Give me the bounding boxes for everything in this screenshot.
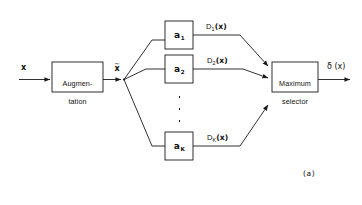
augmentation-line-1: Augmen- (63, 79, 93, 88)
fanout-branch-1 (124, 40, 165, 80)
ellipsis-dot (179, 108, 181, 110)
figure-caption: (a) (303, 169, 315, 178)
signal-wire-1 (193, 35, 268, 66)
augmentation-line-2: tation (68, 97, 86, 106)
signal-name-2: D (207, 56, 213, 65)
fanout-branch-k (124, 80, 165, 147)
signal-subscript-2: 2 (213, 60, 216, 66)
signal-arg-1: (x) (215, 22, 227, 31)
discriminant-symbol-2: a (174, 64, 180, 74)
discriminant-label-1: a1 (165, 31, 193, 41)
selector-line-1: Maximum (279, 79, 311, 88)
discriminant-label-k: aK (165, 142, 193, 152)
discriminant-label-2: a2 (165, 65, 193, 75)
signal-arg-2: (x) (216, 56, 228, 65)
discriminant-symbol-1: a (174, 30, 180, 40)
signal-subscript-1: 1 (212, 26, 215, 32)
ellipsis-dot (179, 120, 181, 122)
block-diagram-figure: x Augmen- tation ~ x a1 a2 aK D1(x) D2(x… (0, 0, 362, 205)
signal-name-k: D (207, 133, 213, 142)
signal-wire-k (193, 105, 268, 146)
signal-subscript-k: K (213, 137, 217, 143)
signal-label-2: D2(x) (207, 56, 228, 65)
discriminant-subscript-k: K (180, 146, 184, 152)
signal-label-k: DK(x) (207, 133, 228, 142)
signal-label-1: D1(x) (206, 22, 227, 31)
augmented-vector-symbol: x (114, 64, 119, 73)
augmented-vector-label: ~ x (111, 62, 123, 72)
discriminant-symbol-k: a (174, 141, 180, 151)
selector-line-2: selector (282, 97, 308, 106)
augmentation-label: Augmen- tation (53, 70, 102, 106)
discriminant-subscript-2: 2 (181, 69, 185, 75)
ellipsis-dot (179, 96, 181, 98)
output-label: δ (x) (327, 62, 345, 71)
maximum-selector-label: Maximum selector (272, 70, 318, 106)
input-label: x (21, 63, 26, 72)
signal-name-1: D (206, 22, 212, 31)
branch-ellipsis (178, 96, 181, 122)
signal-wire-2 (193, 69, 268, 78)
signal-arg-k: (x) (216, 133, 228, 142)
discriminant-subscript-1: 1 (181, 35, 185, 41)
